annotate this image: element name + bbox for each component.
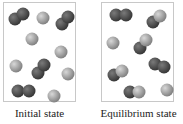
dark-atom <box>158 61 171 74</box>
light-atom <box>37 12 50 25</box>
light-atom <box>140 34 153 47</box>
dark-atom <box>23 85 36 98</box>
light-atom <box>154 10 167 23</box>
light-atom <box>116 65 129 78</box>
dark-atom <box>120 9 133 22</box>
initial-state-label: Initial state <box>3 107 76 119</box>
dark-atom <box>38 59 51 72</box>
dark-atom <box>17 8 30 21</box>
light-atom <box>48 90 61 103</box>
equilibrium-state-label: Equilibrium state <box>94 107 183 119</box>
light-atom <box>107 37 120 50</box>
light-atom <box>10 60 23 73</box>
light-atom <box>55 46 68 59</box>
light-atom <box>62 68 75 81</box>
light-atom <box>26 33 39 46</box>
initial-state-molecules <box>4 3 77 103</box>
dark-atom <box>62 11 75 24</box>
initial-state-box <box>3 2 76 102</box>
equilibrium-state-box <box>101 2 174 102</box>
equilibrium-state-molecules <box>102 3 175 103</box>
light-atom <box>161 84 174 97</box>
light-atom <box>133 86 146 99</box>
